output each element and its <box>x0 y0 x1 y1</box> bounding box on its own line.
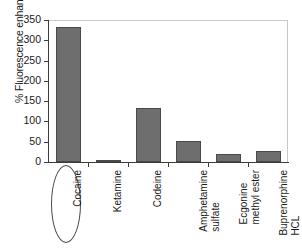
x-category-label-buprenorphine-hcl: Buprenorphine HCL <box>278 170 301 236</box>
y-tick-mark-300 <box>44 40 48 41</box>
y-tick-mark-0 <box>44 162 48 163</box>
bar-cocaine <box>56 27 81 162</box>
bar-ecgonine-methyl-ester <box>216 154 241 162</box>
x-tick-3 <box>168 163 169 167</box>
y-tick-label-300: 300 <box>23 33 41 46</box>
x-tick-1 <box>88 163 89 167</box>
x-category-label-codeine: Codeine <box>152 170 164 207</box>
y-tick-mark-250 <box>44 61 48 62</box>
y-tick-0: 0 <box>0 162 48 163</box>
bar-codeine <box>136 108 161 162</box>
plot-frame <box>48 20 288 162</box>
fluorescence-enhancement-bar-chart: % Fluorescence enhancing 0 50 100 150 20… <box>0 0 302 252</box>
y-tick-250: 250 <box>0 61 48 62</box>
x-category-label-cocaine: Cocaine <box>72 170 84 207</box>
y-tick-mark-200 <box>44 81 48 82</box>
y-axis-line <box>48 20 49 163</box>
x-category-label-ecgonine-methyl-ester: Ecgonine methyl ester <box>238 170 261 224</box>
y-tick-label-250: 250 <box>23 54 41 67</box>
bar-buprenorphine-hcl <box>256 151 281 162</box>
y-tick-50: 50 <box>0 142 48 143</box>
y-tick-label-150: 150 <box>23 94 41 107</box>
x-category-label-ketamine: Ketamine <box>112 170 124 212</box>
y-tick-200: 200 <box>0 81 48 82</box>
x-tick-4 <box>208 163 209 167</box>
y-tick-mark-50 <box>44 142 48 143</box>
x-tick-5 <box>248 163 249 167</box>
y-tick-label-350: 350 <box>23 13 41 26</box>
y-tick-150: 150 <box>0 101 48 102</box>
y-tick-mark-100 <box>44 121 48 122</box>
y-tick-label-100: 100 <box>23 114 41 127</box>
y-tick-100: 100 <box>0 121 48 122</box>
x-category-label-amphetamine-sulfate: Amphetamine sulfate <box>198 170 221 232</box>
y-tick-label-50: 50 <box>29 135 41 148</box>
bar-amphetamine-sulfate <box>176 141 201 162</box>
bar-ketamine <box>96 160 121 162</box>
y-tick-350: 350 <box>0 20 48 21</box>
y-tick-mark-350 <box>44 20 48 21</box>
y-tick-label-200: 200 <box>23 74 41 87</box>
y-tick-mark-150 <box>44 101 48 102</box>
y-tick-300: 300 <box>0 40 48 41</box>
x-tick-2 <box>128 163 129 167</box>
y-tick-label-0: 0 <box>35 155 41 168</box>
